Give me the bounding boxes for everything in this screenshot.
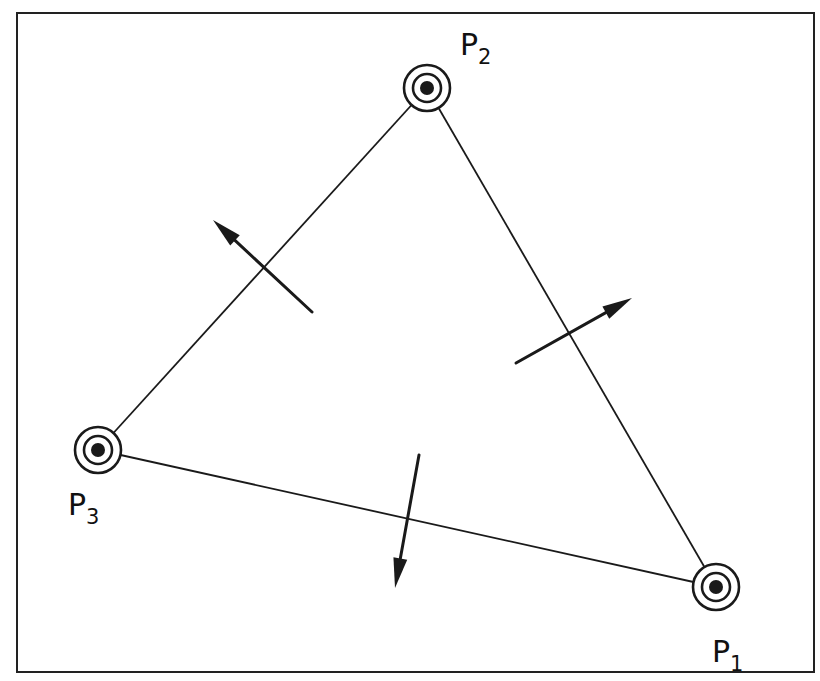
normal-arrow-icon [393,455,419,588]
normal-arrow-icon [213,220,312,312]
normal-arrow-icon [516,298,632,363]
edge-p2-p1 [427,88,716,587]
control-point-p2-icon[interactable] [404,65,450,111]
label-p3: P3 [68,487,99,529]
control-point-p3-icon[interactable] [75,427,121,473]
triangle-edges [98,88,716,587]
label-p1: P1 [712,634,743,676]
label-p2: P2 [460,27,491,69]
control-point-p1-icon[interactable] [693,564,739,610]
point-labels: P1P2P3 [68,27,743,676]
diagram-frame [17,13,814,672]
edge-p3-p2 [98,88,427,450]
normal-arrows [213,220,632,588]
triangle-diagram: P1P2P3 [0,0,820,681]
